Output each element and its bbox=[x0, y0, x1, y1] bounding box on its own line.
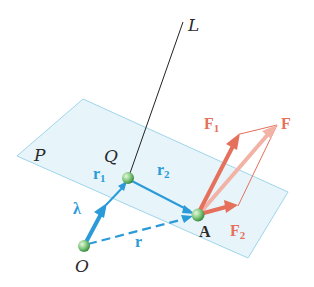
label-r1-sub: 1 bbox=[100, 172, 106, 184]
label-r2: r2 bbox=[157, 162, 170, 180]
label-f2-base: F bbox=[230, 222, 240, 239]
vector-lambda bbox=[85, 203, 107, 244]
label-q: Q bbox=[104, 148, 118, 165]
label-r2-sub: 2 bbox=[164, 168, 170, 180]
point-q bbox=[122, 172, 134, 184]
label-f1-sub: 1 bbox=[214, 122, 220, 134]
label-o: O bbox=[75, 258, 89, 275]
label-f1-base: F bbox=[204, 115, 214, 132]
label-r: r bbox=[135, 234, 142, 250]
label-l: L bbox=[188, 17, 199, 34]
label-lambda: λ bbox=[73, 201, 81, 217]
label-a: A bbox=[199, 224, 211, 240]
label-f2: F2 bbox=[230, 223, 245, 241]
point-a bbox=[192, 209, 205, 222]
label-p: P bbox=[34, 147, 45, 164]
plane-p bbox=[17, 99, 288, 258]
label-r1: r1 bbox=[93, 166, 106, 184]
point-o bbox=[78, 240, 90, 252]
label-f1: F1 bbox=[204, 116, 219, 134]
diagram-canvas bbox=[0, 0, 314, 287]
label-f2-sub: 2 bbox=[240, 229, 246, 241]
label-f: F bbox=[281, 116, 291, 132]
